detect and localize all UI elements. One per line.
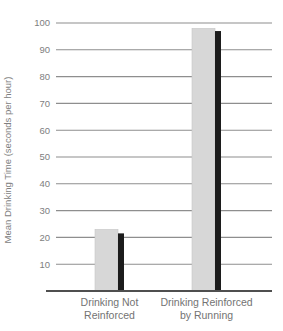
y-axis-title: Mean Drinking Time (seconds per hour) xyxy=(2,77,13,244)
y-tick-label: 90 xyxy=(39,44,50,55)
x-category-label: Drinking Not xyxy=(81,296,139,308)
bar-chart-figure: 102030405060708090100Drinking NotReinfor… xyxy=(0,0,283,331)
bar-shadow xyxy=(215,31,221,291)
y-tick-label: 20 xyxy=(39,232,50,243)
y-tick-label: 60 xyxy=(39,125,50,136)
y-tick-label: 50 xyxy=(39,151,50,162)
y-tick-label: 30 xyxy=(39,205,50,216)
bar-shadow xyxy=(118,233,124,291)
y-tick-label: 100 xyxy=(34,17,50,28)
x-category-label: Drinking Reinforced xyxy=(160,296,252,308)
x-category-label: by Running xyxy=(180,309,233,321)
bar xyxy=(95,229,118,291)
bar xyxy=(192,28,215,291)
x-category-label: Reinforced xyxy=(84,309,135,321)
y-tick-label: 40 xyxy=(39,178,50,189)
y-tick-label: 10 xyxy=(39,259,50,270)
y-tick-label: 80 xyxy=(39,71,50,82)
y-tick-label: 70 xyxy=(39,98,50,109)
bar-chart: 102030405060708090100Drinking NotReinfor… xyxy=(0,0,283,331)
